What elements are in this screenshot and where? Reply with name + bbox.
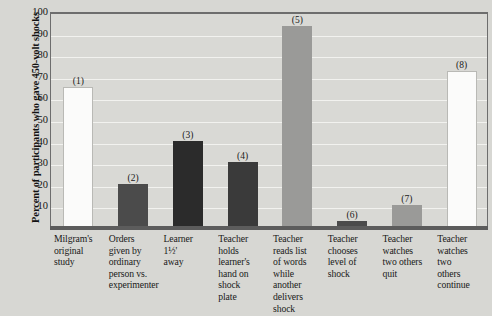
category-label-line: two <box>437 256 488 268</box>
category-label-line: Teacher <box>383 233 434 245</box>
category-label-line: shock <box>273 303 324 315</box>
category-label-line: reads list <box>273 245 324 257</box>
category-label-line: Milgram's <box>54 233 105 245</box>
y-tick-label-10: 10 <box>22 201 48 211</box>
category-label-line: Learner <box>164 233 215 245</box>
bar-body-3 <box>173 141 203 227</box>
y-tick-label-60: 60 <box>22 93 48 103</box>
gridline-50 <box>51 122 487 123</box>
y-tick-label-20: 20 <box>22 180 48 190</box>
category-label-line: ordinary <box>109 256 160 268</box>
bar-4[interactable] <box>228 162 258 227</box>
category-label-line: watches <box>383 245 434 257</box>
category-label-line: given by <box>109 245 160 257</box>
y-tick-label-30: 30 <box>22 158 48 168</box>
y-tick-label-70: 70 <box>22 72 48 82</box>
category-label-line: Teacher <box>328 233 379 245</box>
category-label-8: Teacherwatchestwootherscontinue <box>437 233 488 291</box>
category-label-line: study <box>54 256 105 268</box>
y-axis-tick-labels: 100908070605040302010 <box>22 12 48 228</box>
category-label-line: person vs. <box>109 268 160 280</box>
gridline-60 <box>51 100 487 101</box>
category-label-5: Teacherreads listof wordswhileanotherdel… <box>273 233 324 314</box>
x-axis-baseline <box>50 226 488 230</box>
gridline-70 <box>51 79 487 80</box>
bar-3[interactable] <box>173 141 203 227</box>
category-label-line: of words <box>273 256 324 268</box>
category-label-line: away <box>164 256 215 268</box>
category-label-line: Teacher <box>218 233 269 245</box>
category-label-line: learner's <box>218 256 269 268</box>
bar-8[interactable] <box>447 71 477 227</box>
x-axis-category-labels: Milgram'soriginalstudyOrdersgiven byordi… <box>50 233 488 317</box>
bar-number-label-2: (2) <box>128 173 139 183</box>
category-label-line: 1½' <box>164 245 215 257</box>
category-label-3: Learner1½'away <box>164 233 215 268</box>
bar-number-label-1: (1) <box>73 76 84 86</box>
category-label-2: Ordersgiven byordinaryperson vs.experime… <box>109 233 160 291</box>
category-label-line: quit <box>383 268 434 280</box>
category-label-line: holds <box>218 245 269 257</box>
category-label-line: original <box>54 245 105 257</box>
bar-body-4 <box>228 162 258 227</box>
bar-5[interactable] <box>282 26 312 227</box>
category-label-line: hand on <box>218 268 269 280</box>
category-label-line: plate <box>218 291 269 303</box>
y-tick-label-80: 80 <box>22 50 48 60</box>
gridline-20 <box>51 187 487 188</box>
category-label-line: Orders <box>109 233 160 245</box>
category-label-line: delivers <box>273 291 324 303</box>
bar-chart-figure: Percent of participants who gave 450-vol… <box>0 0 495 320</box>
bar-body-5 <box>282 26 312 227</box>
category-label-line: others <box>437 268 488 280</box>
bar-7[interactable] <box>392 205 422 227</box>
gridline-90 <box>51 36 487 37</box>
category-label-line: another <box>273 279 324 291</box>
category-label-line: level of <box>328 256 379 268</box>
y-tick-label-40: 40 <box>22 137 48 147</box>
bar-number-label-8: (8) <box>456 60 467 70</box>
bar-body-1 <box>63 87 93 227</box>
y-tick-label-90: 90 <box>22 29 48 39</box>
category-label-line: watches <box>437 245 488 257</box>
category-label-line: shock <box>328 268 379 280</box>
y-tick-label-50: 50 <box>22 115 48 125</box>
category-label-7: Teacherwatchestwo othersquit <box>383 233 434 279</box>
bar-body-7 <box>392 205 422 227</box>
bar-1[interactable] <box>63 87 93 227</box>
category-label-1: Milgram'soriginalstudy <box>54 233 105 268</box>
plot-area: (1)(2)(3)(4)(5)(6)(7)(8) <box>50 12 488 228</box>
category-label-6: Teacherchooseslevel ofshock <box>328 233 379 279</box>
gridline-30 <box>51 165 487 166</box>
gridline-80 <box>51 57 487 58</box>
category-label-line: Teacher <box>273 233 324 245</box>
y-tick-label-100: 100 <box>22 7 48 17</box>
bar-body-2 <box>118 184 148 227</box>
category-label-line: experimenter <box>109 279 160 291</box>
category-label-line: two others <box>383 256 434 268</box>
bar-number-label-3: (3) <box>182 130 193 140</box>
bar-number-label-7: (7) <box>401 194 412 204</box>
category-label-line: chooses <box>328 245 379 257</box>
category-label-4: Teacherholdslearner'shand onshockplate <box>218 233 269 303</box>
category-label-line: continue <box>437 279 488 291</box>
category-label-line: Teacher <box>437 233 488 245</box>
bar-number-label-4: (4) <box>237 151 248 161</box>
category-label-line: while <box>273 268 324 280</box>
gridline-40 <box>51 144 487 145</box>
bar-number-label-5: (5) <box>292 15 303 25</box>
bar-number-label-6: (6) <box>347 210 358 220</box>
bar-2[interactable] <box>118 184 148 227</box>
category-label-line: shock <box>218 279 269 291</box>
bar-body-8 <box>447 71 477 227</box>
